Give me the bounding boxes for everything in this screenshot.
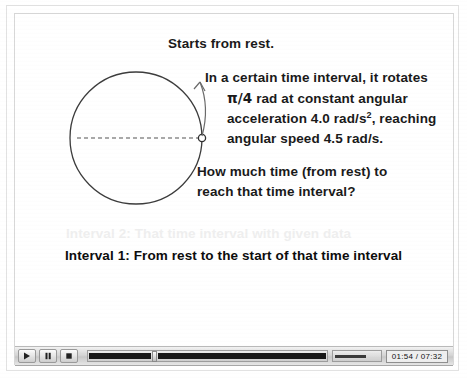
problem-line-2-rest: rad at constant angular — [252, 91, 407, 106]
time-display: 01:54 / 07:32 — [386, 350, 448, 363]
seek-bar-thumb[interactable] — [152, 351, 157, 362]
slide-content-area: Starts from rest. In a certain time inte… — [15, 14, 453, 338]
volume-slider[interactable] — [332, 350, 382, 362]
question-paragraph: How much time (from rest) to reach that … — [197, 162, 452, 202]
player-control-bar: 01:54 / 07:32 — [15, 346, 453, 366]
interval-1-text: Interval 1: From rest to the start of th… — [65, 247, 402, 265]
problem-line-3-a: acceleration 4.0 rad/s — [227, 111, 367, 126]
question-line-1: How much time (from rest) to — [197, 162, 452, 182]
starts-from-rest-text: Starts from rest. — [168, 36, 274, 52]
seek-bar-remaining — [158, 353, 326, 359]
problem-statement-paragraph: In a certain time interval, it rotates π… — [205, 68, 453, 149]
seek-bar-elapsed — [89, 353, 151, 359]
problem-line-1: In a certain time interval, it rotates — [205, 68, 453, 88]
video-player-screenshot: Starts from rest. In a certain time inte… — [0, 0, 467, 378]
pi-over-four-value: π/4 — [227, 90, 252, 106]
seek-bar[interactable] — [87, 350, 328, 362]
problem-line-3-b: , reaching — [372, 111, 437, 126]
rotation-arrow-head — [194, 82, 205, 91]
interval-2-faded-text: Interval 2: That time interval with give… — [66, 225, 351, 243]
problem-line-3: acceleration 4.0 rad/s2, reaching — [227, 109, 453, 129]
volume-slider-level — [335, 355, 366, 358]
problem-line-2: π/4 rad at constant angular — [227, 88, 453, 109]
pause-button[interactable] — [39, 349, 57, 363]
stop-button[interactable] — [60, 349, 78, 363]
play-button[interactable] — [18, 349, 36, 363]
problem-line-4: angular speed 4.5 rad/s. — [227, 129, 453, 149]
question-line-2: reach that time interval? — [197, 182, 452, 202]
